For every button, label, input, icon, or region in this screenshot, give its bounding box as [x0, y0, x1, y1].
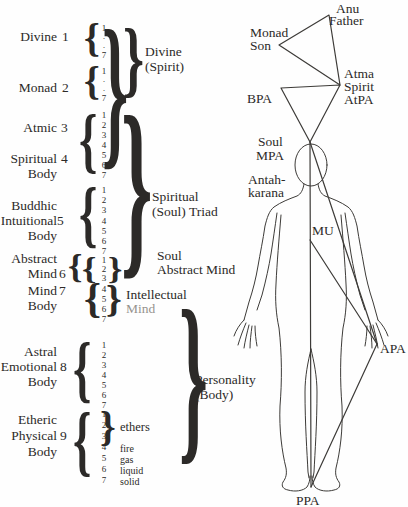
figure-label-son: Son [250, 39, 271, 52]
opening-brace: { [73, 333, 91, 407]
subplane-number: 5 [99, 381, 109, 390]
subplane-number: 2 [99, 351, 109, 360]
group-label-personality-body: Personality (Body) [195, 372, 256, 402]
plane-label-monad: Monad [0, 81, 57, 95]
subplane-number: 1 [99, 186, 109, 195]
group-label-line: Personality [195, 372, 256, 387]
plane-number: 3 [61, 121, 68, 135]
plane-label-buddhic: Intuitional [0, 214, 57, 228]
plane-label-abstract: Mind [0, 267, 57, 281]
subplane-number: 4 [99, 371, 109, 380]
closing-brace: } [121, 87, 153, 284]
figure-label-atpa: AtPA [344, 93, 374, 106]
group-label-soul-abstract-mind: Soul Abstract Mind [157, 249, 235, 277]
group-label-line: (Soul) Triad [152, 204, 218, 219]
plane-label-buddhic: Body [0, 229, 57, 243]
closing-brace: } [106, 281, 122, 318]
plane-label-divine: Divine [0, 30, 57, 44]
plane-label-etheric: Body [0, 445, 57, 459]
plane-label-spiritual: Body [0, 167, 57, 181]
apa-to-ppa-line [311, 344, 377, 487]
subplane-number: 4 [99, 217, 109, 226]
plane-number: 7 [59, 284, 66, 298]
plane-label-spiritual: Spiritual [0, 152, 57, 166]
soul-to-apa-line [310, 142, 377, 344]
group-label-line: (Spirit) [145, 59, 184, 74]
physical-state-label: liquid [120, 466, 143, 476]
opening-brace: { [84, 62, 100, 101]
plane-label-atmic: Atmic [0, 121, 57, 135]
subplane-number: 5 [99, 454, 109, 463]
closing-brace: } [100, 405, 116, 448]
figure-label-soul: Soul [258, 135, 283, 148]
plane-number: 8 [60, 360, 67, 374]
plane-number: 9 [60, 429, 67, 443]
figure-label-karana: karana [248, 186, 284, 199]
plane-label-astral: Emotional [0, 360, 57, 374]
central-sutratma-line [310, 142, 311, 487]
plane-label-abstract: Abstract [0, 252, 57, 266]
group-label-divine-spirit: Divine (Spirit) [145, 44, 184, 74]
figure-label-ppa: PPA [296, 494, 320, 507]
plane-label-buddhic: Buddhic [0, 199, 57, 213]
opening-brace: { [79, 178, 97, 252]
subplane-number: 6 [99, 391, 109, 400]
left-hand-fingers [234, 320, 244, 336]
subplane-number: 1 [99, 341, 109, 350]
right-hand-fingers [378, 320, 388, 336]
ethers-label: ethers [120, 421, 150, 434]
group-label-line: Abstract Mind [157, 263, 235, 277]
figure-label-mu: MU [312, 224, 334, 237]
group-label-line: Mind [126, 302, 187, 316]
group-label-line: Intellectual [126, 288, 187, 302]
opening-brace: { [84, 19, 100, 58]
plane-label-astral: Astral [0, 345, 57, 359]
plane-number: 5 [57, 214, 64, 228]
figure-label-apa: APA [380, 342, 406, 355]
physical-state-label: gas [120, 455, 133, 465]
subplane-number: 3 [99, 206, 109, 215]
figure-label-father: Father [329, 14, 364, 27]
opening-brace: { [68, 251, 82, 284]
subplane-number: 6 [99, 237, 109, 246]
figure-label-bpa: BPA [247, 92, 272, 105]
physical-state-label: fire [120, 444, 134, 454]
plane-label-etheric: Etheric [0, 413, 57, 427]
plane-number: 6 [59, 267, 66, 281]
diagram-canvas: Divine1Monad2Atmic3SpiritualBody4Buddhic… [0, 0, 408, 507]
plane-number: 4 [61, 152, 68, 166]
group-label-intellectual-mind: Intellectual Mind [126, 288, 187, 316]
group-label-line: Spiritual [152, 189, 218, 204]
spiritual-triad-triangle [281, 85, 340, 142]
group-label-spiritual-triad: Spiritual (Soul) Triad [152, 189, 218, 219]
group-label-line: Soul [157, 249, 235, 263]
figure-label-mpa: MPA [256, 149, 284, 162]
plane-number: 2 [62, 81, 69, 95]
mu-to-apa-line [310, 240, 377, 344]
plane-label-astral: Body [0, 375, 57, 389]
plane-label-mind: Body [0, 299, 57, 313]
plane-label-mind: Mind [0, 284, 57, 298]
opening-brace: { [73, 402, 91, 481]
physical-state-label: solid [120, 477, 139, 487]
subplane-number: 6 [99, 465, 109, 474]
subplane-number: 2 [99, 196, 109, 205]
opening-brace: { [84, 277, 101, 320]
subplane-number: 5 [99, 227, 109, 236]
subplane-number: 3 [99, 361, 109, 370]
opening-brace: { [79, 104, 97, 177]
group-label-line: Divine [145, 44, 184, 59]
group-label-line: (Body) [195, 387, 256, 402]
plane-number: 1 [62, 30, 69, 44]
plane-label-etheric: Physical [0, 429, 57, 443]
subplane-number: 7 [99, 476, 109, 485]
